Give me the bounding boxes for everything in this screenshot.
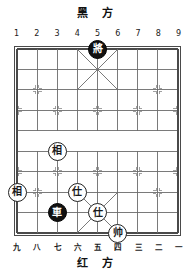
red-elephant-edge[interactable]: 相 <box>8 183 27 202</box>
file-label-top-4: 4 <box>72 29 83 39</box>
black-side-caption: 黑 方 <box>0 8 195 20</box>
red-elephant-left-glyph: 相 <box>52 146 62 156</box>
black-general-glyph: 將 <box>93 44 103 54</box>
red-advisor-lower-glyph: 仕 <box>93 207 103 217</box>
file-label-top-2: 2 <box>31 29 42 39</box>
black-general[interactable]: 將 <box>88 40 107 59</box>
black-chariot[interactable]: 車 <box>48 203 67 222</box>
red-marshal-glyph: 帅 <box>113 228 123 238</box>
red-side-caption: 红 方 <box>0 258 195 270</box>
file-label-bottom-9: 一 <box>173 243 184 253</box>
red-elephant-edge-glyph: 相 <box>12 187 22 197</box>
file-label-bottom-4: 六 <box>72 243 83 253</box>
red-elephant-left[interactable]: 相 <box>48 142 67 161</box>
file-label-bottom-7: 三 <box>133 243 144 253</box>
file-label-bottom-5: 五 <box>92 243 103 253</box>
file-label-top-3: 3 <box>52 29 63 39</box>
bottom-file-coordinates: 九八七六五四三二一 <box>11 242 184 254</box>
file-label-bottom-6: 四 <box>112 243 123 253</box>
file-label-top-9: 9 <box>173 29 184 39</box>
file-label-bottom-3: 七 <box>52 243 63 253</box>
xiangqi-board[interactable]: 將相相仕車仕帅 <box>10 44 185 238</box>
file-label-bottom-2: 八 <box>31 243 42 253</box>
red-advisor-lower[interactable]: 仕 <box>88 203 107 222</box>
file-label-top-8: 8 <box>153 29 164 39</box>
top-file-coordinates: 123456789 <box>11 28 184 40</box>
red-advisor-upper-glyph: 仕 <box>72 187 82 197</box>
file-label-top-5: 5 <box>92 29 103 39</box>
file-label-bottom-8: 二 <box>153 243 164 253</box>
red-marshal[interactable]: 帅 <box>108 224 127 243</box>
black-chariot-glyph: 車 <box>52 207 62 217</box>
file-label-top-7: 7 <box>133 29 144 39</box>
red-advisor-upper[interactable]: 仕 <box>68 183 87 202</box>
file-label-top-1: 1 <box>11 29 22 39</box>
file-label-bottom-1: 九 <box>11 243 22 253</box>
file-label-top-6: 6 <box>112 29 123 39</box>
xiangqi-screenshot: 黑 方 123456789 將相相仕車仕帅 九八七六五四三二一 红 方 <box>0 0 195 276</box>
